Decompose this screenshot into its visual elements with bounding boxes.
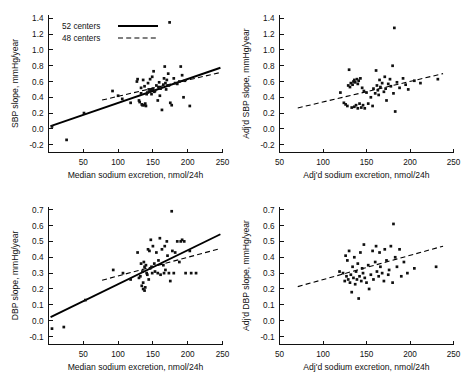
- data-point: [398, 86, 401, 89]
- data-point: [383, 248, 386, 251]
- x-tick-label: 50: [275, 350, 285, 359]
- data-point: [370, 96, 373, 99]
- fit-line-dashed: [102, 72, 220, 100]
- y-tick-label: 0.5: [32, 237, 44, 246]
- y-tick-label: 0.0: [263, 317, 275, 326]
- data-point: [51, 327, 54, 330]
- data-point: [156, 99, 159, 102]
- data-point: [349, 273, 352, 276]
- data-point: [163, 245, 166, 248]
- x-axis-label: Adj'd sodium excretion, nmol/24h: [303, 170, 430, 180]
- data-point: [342, 272, 345, 275]
- y-tick-label: -0.1: [29, 333, 44, 342]
- data-point: [140, 262, 143, 265]
- data-point: [169, 101, 172, 104]
- chart-dbp-adjusted: -0.10.00.10.20.30.40.50.60.7501001502002…: [231, 192, 462, 384]
- data-point: [435, 265, 438, 268]
- data-point: [152, 87, 155, 90]
- data-point: [338, 270, 341, 273]
- data-point: [148, 250, 151, 253]
- fit-line-dashed: [298, 246, 443, 286]
- data-point: [361, 267, 364, 270]
- x-tick-label: 50: [79, 158, 89, 167]
- data-point: [377, 275, 380, 278]
- y-tick-label: 0.3: [32, 269, 44, 278]
- x-tick-label: 250: [447, 158, 461, 167]
- data-point: [392, 223, 395, 226]
- y-tick-label: -0.2: [260, 141, 275, 150]
- data-point: [361, 86, 364, 89]
- panel-dbp-unadjusted: -0.10.00.10.20.30.40.50.60.7501001502002…: [0, 192, 231, 384]
- data-point: [161, 109, 164, 112]
- data-point: [363, 277, 366, 280]
- x-tick-label: 150: [360, 158, 374, 167]
- data-point: [172, 272, 175, 275]
- data-point: [362, 272, 365, 275]
- data-point: [378, 251, 381, 254]
- y-tick-label: 0.6: [32, 78, 44, 87]
- data-point: [375, 69, 378, 72]
- data-point: [356, 262, 359, 265]
- data-point: [363, 90, 366, 93]
- data-point: [147, 278, 150, 281]
- x-tick-label: 200: [403, 350, 417, 359]
- x-tick-label: 200: [181, 158, 195, 167]
- data-point: [393, 27, 396, 30]
- y-tick-label: 0.0: [32, 317, 44, 326]
- data-point: [387, 83, 390, 86]
- data-point: [84, 299, 87, 302]
- data-point: [339, 91, 342, 94]
- data-point: [163, 77, 166, 80]
- y-tick-label: -0.2: [29, 141, 44, 150]
- y-tick-label: 0.8: [32, 62, 44, 71]
- data-point: [156, 272, 159, 275]
- y-axis-label: SBP slope, mmHg/year: [10, 39, 20, 128]
- y-tick-label: 1.0: [263, 46, 275, 55]
- data-point: [398, 248, 401, 251]
- y-tick-label: 0.1: [32, 301, 44, 310]
- y-tick-label: 0.6: [263, 78, 275, 87]
- data-point: [356, 278, 359, 281]
- data-point: [391, 64, 394, 67]
- data-point: [357, 79, 360, 82]
- chart-sbp-unadjusted: -0.20.00.20.40.60.81.01.21.4501001502002…: [0, 0, 231, 192]
- data-point: [138, 101, 141, 104]
- chart-dbp-unadjusted: -0.10.00.10.20.30.40.50.60.7501001502002…: [0, 192, 231, 384]
- data-point: [181, 74, 184, 77]
- x-tick-label: 100: [316, 350, 330, 359]
- data-point: [184, 272, 187, 275]
- data-point: [147, 82, 150, 85]
- data-point: [159, 237, 162, 240]
- y-tick-label: 0.2: [32, 109, 44, 118]
- data-point: [371, 105, 374, 108]
- data-point: [376, 270, 379, 273]
- data-point: [363, 243, 366, 246]
- data-point: [360, 106, 363, 109]
- y-tick-label: 0.4: [32, 253, 44, 262]
- data-point: [152, 70, 155, 73]
- y-axis-label: Adj'd SBP slope, mmHg/year: [241, 28, 251, 139]
- data-point: [379, 265, 382, 268]
- data-point: [174, 251, 177, 254]
- data-point: [381, 82, 384, 85]
- data-point: [375, 245, 378, 248]
- data-point: [159, 273, 162, 276]
- data-point: [169, 280, 172, 283]
- data-point: [172, 77, 175, 80]
- data-point: [188, 250, 191, 253]
- data-point: [195, 272, 198, 275]
- y-tick-label: 0.6: [32, 222, 44, 231]
- panel-dbp-adjusted: -0.10.00.10.20.30.40.50.60.7501001502002…: [231, 192, 462, 384]
- data-point: [136, 78, 139, 81]
- x-tick-label: 150: [146, 350, 160, 359]
- data-point: [354, 81, 357, 84]
- data-point: [357, 297, 360, 300]
- y-tick-label: 1.4: [263, 14, 275, 23]
- data-point: [354, 283, 357, 286]
- axis-spine: [280, 207, 454, 345]
- data-point: [383, 280, 386, 283]
- data-point: [151, 272, 154, 275]
- data-point: [349, 281, 352, 284]
- legend-label: 52 centers: [62, 22, 100, 31]
- x-tick-label: 200: [403, 158, 417, 167]
